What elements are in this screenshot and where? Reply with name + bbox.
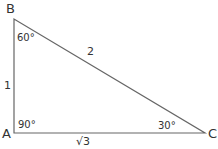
angle-a-label: 90° [18, 120, 36, 130]
triangle-diagram: B A C 60° 90° 30° 1 2 √3 [0, 0, 218, 149]
angle-b-label: 60° [17, 33, 35, 43]
vertex-label-b: B [6, 2, 15, 15]
vertex-label-a: A [2, 127, 11, 140]
side-ac-label: √3 [76, 136, 90, 147]
side-ab-label: 1 [4, 80, 11, 91]
angle-c-label: 30° [158, 121, 176, 131]
side-bc-label: 2 [87, 46, 94, 57]
vertex-label-c: C [208, 127, 217, 140]
